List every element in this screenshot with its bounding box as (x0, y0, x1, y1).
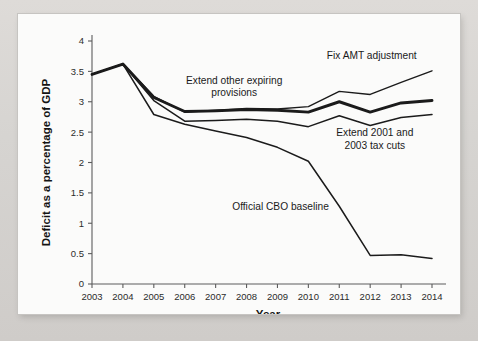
chart-paper: 00.511.522.533.5420032004200520062007200… (18, 14, 460, 314)
y-axis-title: Deficit as a percentage of GDP (40, 78, 52, 246)
x-axis-tick-label: 2003 (81, 291, 102, 302)
x-axis-tick-label: 2010 (298, 291, 319, 302)
x-axis-tick-label: 2005 (143, 291, 164, 302)
y-axis-tick-label: 2 (79, 157, 84, 168)
x-axis-tick-label: 2007 (205, 291, 226, 302)
annotation-official-cbo-baseline: Official CBO baseline (232, 201, 329, 212)
x-axis-tick-label: 2013 (391, 291, 412, 302)
y-axis-tick-label: 3 (79, 96, 84, 107)
y-axis-tick-label: 2.5 (71, 127, 84, 138)
x-axis-tick-label: 2014 (421, 291, 442, 302)
figure-root: 00.511.522.533.5420032004200520062007200… (0, 0, 478, 341)
annotations-group: Fix AMT adjustmentExtend other expiringp… (186, 50, 417, 212)
y-axis-tick-label: 1 (79, 218, 84, 229)
y-axis-tick-label: 0.5 (71, 248, 84, 259)
x-axis-tick-label: 2004 (112, 291, 133, 302)
x-axis-tick-label: 2011 (329, 291, 349, 302)
y-axis-tick-label: 1.5 (71, 187, 84, 198)
series-line-official-cbo-baseline: Official CBO baseline (92, 64, 432, 258)
line-chart: 00.511.522.533.5420032004200520062007200… (18, 14, 460, 314)
series-line-extend-2001-and-2003-tax-cuts: Extend 2001 and 2003 tax cuts (92, 64, 432, 127)
y-axis-tick-label: 4 (79, 35, 84, 46)
x-axis-tick-label: 2008 (236, 291, 257, 302)
x-axis-tick-label: 2006 (174, 291, 195, 302)
y-axis-tick-label: 3.5 (71, 66, 84, 77)
y-axis-tick-label: 0 (79, 278, 84, 289)
annotation-fix-amt-adjustment: Fix AMT adjustment (327, 50, 417, 61)
annotation-extend-2001-and-2003-tax-cuts: Extend 2001 and2003 tax cuts (336, 127, 413, 151)
annotation-extend-other-expiring-provisions: Extend other expiringprovisions (186, 75, 283, 99)
x-axis-tick-label: 2012 (360, 291, 381, 302)
x-axis-tick-label: 2009 (267, 291, 288, 302)
series-group: Fix AMT adjustmentExtend other expiring … (92, 64, 432, 258)
x-axis-title: Year (256, 308, 281, 314)
